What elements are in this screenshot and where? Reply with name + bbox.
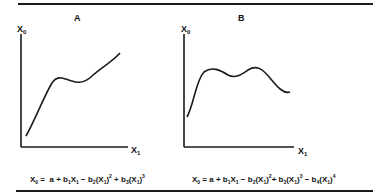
- panel-b-axes: [184, 34, 294, 147]
- panel-a-axes: [21, 34, 128, 147]
- diagram-plots: [0, 0, 373, 196]
- panel-a-equation: X0 = a + b1X1 − b2(X1)2 + b3(X1)3: [30, 174, 145, 185]
- panel-b-curve: [187, 68, 290, 117]
- panel-b-equation: X0 = a + b1X1 − b2(X1)2+ b3(X1)3 − b4(X1…: [192, 174, 335, 185]
- panel-a-curve: [26, 53, 120, 136]
